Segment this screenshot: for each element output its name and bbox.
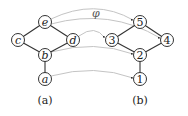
map-arc-a-1 [51,70,133,78]
poset-map-diagram: φ e c d b a [0,0,188,116]
caption-a: (a) [37,94,52,107]
svg-text:5: 5 [137,16,144,29]
node-b: b [39,49,52,62]
arrow-dot-1 [131,77,133,79]
node-a: a [39,73,52,86]
svg-text:a: a [42,73,49,86]
node-d: d [67,34,80,47]
map-label-phi: φ [92,7,100,20]
node-2: 2 [134,49,147,62]
node-e: e [39,16,52,29]
graph-a-nodes: e c d b a [12,16,80,86]
arrow-dot-5 [131,19,133,21]
node-1: 1 [134,73,147,86]
svg-text:c: c [15,34,21,47]
arrow-dot-4 [158,37,160,39]
arrow-dot-3 [103,36,105,38]
node-3: 3 [106,34,119,47]
svg-text:1: 1 [137,73,144,86]
map-arc-d-3 [79,30,105,38]
node-4: 4 [161,34,174,47]
svg-text:4: 4 [164,34,171,47]
map-arc-b-2 [51,46,133,54]
caption-b: (b) [132,94,148,107]
node-c: c [12,34,25,47]
arrow-dot-2 [131,53,133,55]
graph-b-nodes: 5 3 4 2 1 [106,16,174,86]
svg-text:e: e [42,16,49,29]
svg-text:3: 3 [109,34,116,47]
node-5: 5 [134,16,147,29]
svg-text:b: b [41,49,48,62]
svg-text:2: 2 [137,49,144,62]
svg-text:d: d [69,34,76,47]
